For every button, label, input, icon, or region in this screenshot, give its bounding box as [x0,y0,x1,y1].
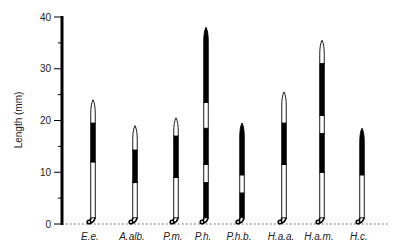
specimen-pm [169,118,178,225]
y-axis: 010203040 [40,12,62,230]
specimens [86,27,364,224]
specimen-ham [315,40,324,224]
band-black [91,123,96,162]
y-tick-label: 40 [40,12,52,23]
band-white [174,118,179,136]
specimen-hc [355,128,364,224]
stalk [320,218,324,223]
band-black [320,64,325,116]
band-white [91,162,96,218]
y-tick-label: 0 [45,219,51,230]
y-tick-label: 10 [40,167,52,178]
specimen-phb [235,123,244,225]
y-tick-label: 30 [40,63,52,74]
x-category-label: A.alb. [118,231,145,242]
x-category-label: E.e. [81,231,99,242]
band-white [133,183,138,218]
band-black [174,136,179,177]
specimen-haa [277,92,286,225]
x-category-label: P.h. [195,231,212,242]
band-white [204,102,209,128]
chart: 010203040 Length (mm) E.e.A.alb.P.m.P.h.… [0,0,394,249]
stalk [282,218,286,223]
band-black [282,123,287,164]
band-white [174,177,179,217]
stalk [91,218,95,223]
band-white [360,175,365,218]
band-white [320,40,325,63]
band-white [240,175,245,193]
band-black [204,183,209,218]
band-white [282,164,287,217]
band-white [320,115,325,133]
base-knob-center [171,221,173,223]
band-black [204,27,209,102]
base-knob-center [357,221,359,223]
specimen-aalb [128,126,137,225]
base-knob-center [201,221,203,223]
base-knob-center [317,221,319,223]
band-white [282,92,287,123]
band-black [133,150,138,183]
band-black [240,123,245,175]
x-category-label: H.c. [350,231,368,242]
base-knob-center [130,221,132,223]
stalk [240,218,244,223]
stalk [174,218,178,223]
stalk [204,218,208,223]
specimen-ph [199,27,208,224]
y-axis-label: Length (mm) [13,92,24,149]
band-black [320,133,325,172]
x-category-label: P.m. [163,231,182,242]
band-black [360,128,365,175]
band-black [204,128,209,164]
band-black [240,193,245,218]
base-knob-center [279,221,281,223]
band-white [133,126,138,150]
stalk [133,218,137,223]
band-white [320,172,325,218]
x-category-label: H.a.a. [268,231,295,242]
base-knob-center [237,221,239,223]
x-category-label: P.h.b. [227,231,252,242]
base-knob-center [88,221,90,223]
y-tick-label: 20 [40,115,52,126]
x-axis-labels: E.e.A.alb.P.m.P.h.P.h.b.H.a.a.H.a.m.H.c. [81,231,368,242]
x-category-label: H.a.m. [304,231,333,242]
specimen-ee [86,100,95,225]
stalk [360,218,364,223]
band-white [91,100,96,123]
band-white [204,164,209,182]
